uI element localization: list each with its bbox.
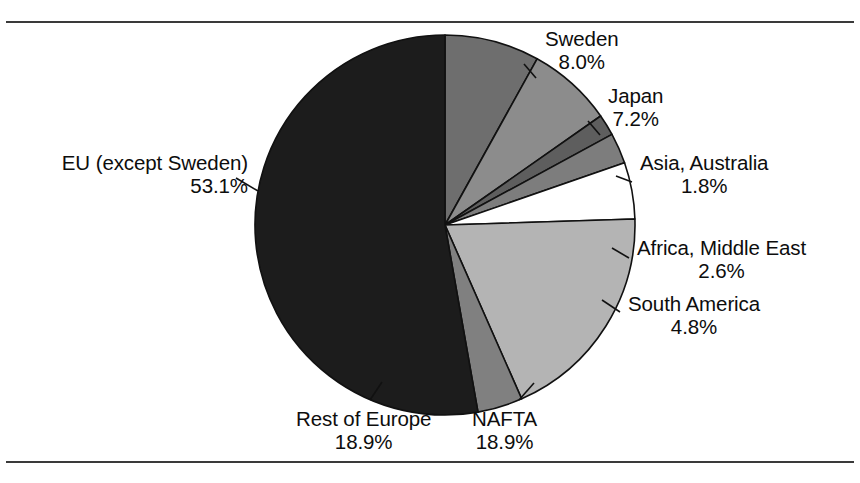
pie-label-rest-of-europe: Rest of Europe 18.9% (296, 408, 431, 454)
pie-label-africa-middle-east-name: Africa, Middle East (637, 237, 806, 260)
pie-label-asia-australia: Asia, Australia 1.8% (640, 152, 768, 198)
pie-label-south-america: South America 4.8% (628, 293, 760, 339)
pie-label-africa-middle-east: Africa, Middle East 2.6% (637, 237, 806, 283)
pie-label-nafta: NAFTA 18.9% (472, 408, 537, 454)
pie-label-nafta-name: NAFTA (472, 408, 537, 431)
pie-label-eu: EU (except Sweden) 53.1% (62, 152, 248, 198)
pie-label-sweden: Sweden 8.0% (545, 28, 618, 74)
pie-label-nafta-value: 18.9% (472, 431, 537, 454)
pie-slice-eu-except-sweden (255, 35, 478, 415)
pie-label-sweden-value: 8.0% (545, 51, 618, 74)
pie-label-rest-of-europe-value: 18.9% (296, 431, 431, 454)
pie-label-japan-name: Japan (608, 85, 663, 108)
pie-label-japan: Japan 7.2% (608, 85, 663, 131)
pie-chart-figure: EU (except Sweden) 53.1% Sweden 8.0% Jap… (0, 0, 860, 483)
pie-label-south-america-name: South America (628, 293, 760, 316)
pie-label-sweden-name: Sweden (545, 28, 618, 51)
pie-label-africa-middle-east-value: 2.6% (637, 260, 806, 283)
pie-label-japan-value: 7.2% (608, 108, 663, 131)
pie-label-asia-australia-value: 1.8% (640, 175, 768, 198)
pie-label-rest-of-europe-name: Rest of Europe (296, 408, 431, 431)
pie-label-eu-value: 53.1% (62, 175, 248, 198)
pie-slice-group (255, 35, 635, 415)
pie-label-south-america-value: 4.8% (628, 316, 760, 339)
pie-label-asia-australia-name: Asia, Australia (640, 152, 768, 175)
pie-label-eu-name: EU (except Sweden) (62, 152, 248, 175)
